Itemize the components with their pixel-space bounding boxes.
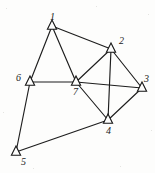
graph-node-7[interactable] [71, 76, 80, 85]
graph-node-6[interactable] [25, 76, 34, 85]
node-label-1: 1 [50, 12, 55, 22]
node-layer [11, 20, 146, 155]
node-label-6: 6 [16, 73, 21, 83]
node-label-4: 4 [106, 126, 111, 136]
graph-edge [16, 120, 108, 152]
graph-edge [30, 26, 52, 82]
graph-edge [111, 49, 142, 88]
graph-figure: 1234567 [0, 0, 155, 173]
node-label-3: 3 [144, 74, 149, 84]
graph-edge [16, 82, 30, 152]
graph-edge [76, 49, 111, 82]
graph-edge [76, 82, 108, 120]
node-label-5: 5 [21, 157, 26, 167]
graph-edge [108, 88, 142, 120]
node-label-7: 7 [73, 87, 78, 97]
node-label-2: 2 [119, 36, 124, 46]
